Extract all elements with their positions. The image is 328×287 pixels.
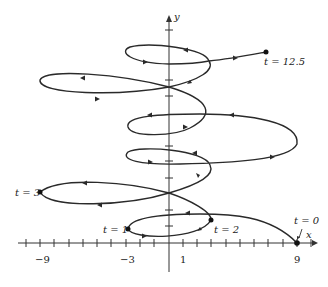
label-t2: t = 2 — [214, 224, 239, 235]
point-t12-5 — [264, 50, 269, 55]
label-t1: t = 1 — [103, 224, 128, 235]
x-axis-label: x — [306, 229, 312, 240]
x-tick-label-neg3: −3 — [120, 254, 135, 265]
y-axis-label: y — [173, 11, 180, 22]
x-axis — [18, 240, 318, 246]
point-t2 — [209, 218, 214, 223]
x-tick-label-1: 1 — [180, 254, 186, 265]
x-tick-label-9: 9 — [294, 254, 300, 265]
t0-pointer-arrow — [297, 229, 302, 240]
label-t12-5: t = 12.5 — [264, 56, 305, 67]
label-t3: t = 3 — [15, 187, 40, 198]
x-tick-label-neg9: −9 — [35, 254, 50, 265]
label-t0: t = 0 — [294, 215, 320, 226]
point-t0 — [294, 240, 300, 246]
y-axis — [166, 15, 172, 272]
parametric-curve-diagram: x y −9 −3 1 9 t = 0 t = 1 t = 2 t = 3 t … — [0, 0, 328, 287]
